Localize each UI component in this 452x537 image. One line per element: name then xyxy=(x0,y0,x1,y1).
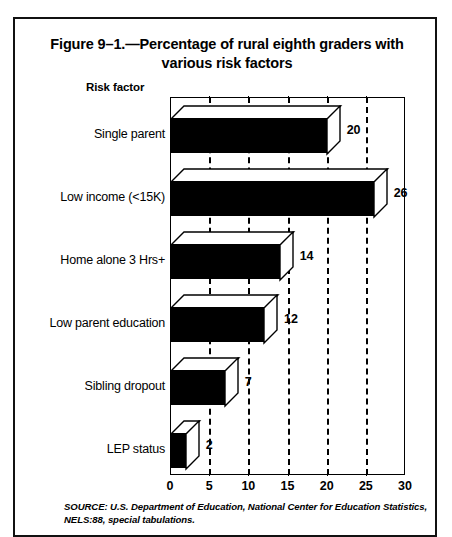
figure-title: Figure 9–1.—Percentage of rural eighth g… xyxy=(41,35,413,73)
bar-side-face xyxy=(279,231,295,282)
bar-front-face xyxy=(170,307,264,342)
x-tick-20 xyxy=(327,470,328,476)
gridline-5 xyxy=(209,97,211,475)
x-tick-top-10 xyxy=(248,96,249,102)
x-tick-label-0: 0 xyxy=(167,479,174,493)
x-tick-top-25 xyxy=(366,96,367,102)
x-tick-label-10: 10 xyxy=(241,479,255,493)
bar-side-face xyxy=(373,168,389,219)
bar-front-face xyxy=(170,370,225,405)
bar-value-label: 26 xyxy=(394,186,408,200)
source-note-line-2: NELS:88, special tabulations. xyxy=(64,514,438,527)
bar-side-face xyxy=(263,294,279,345)
x-tick-label-15: 15 xyxy=(281,479,295,493)
x-tick-top-20 xyxy=(327,96,328,102)
x-tick-10 xyxy=(248,470,249,476)
bar-front-face xyxy=(170,433,186,468)
figure-title-line-1: Figure 9–1.—Percentage of rural eighth g… xyxy=(50,36,403,52)
category-label-sibling-dropout: Sibling dropout xyxy=(5,379,165,393)
bar-front-face xyxy=(170,244,280,279)
bar-value-label: 12 xyxy=(284,312,298,326)
x-tick-top-15 xyxy=(288,96,289,102)
gridline-25 xyxy=(366,97,368,475)
gridline-10 xyxy=(248,97,250,475)
x-tick-top-5 xyxy=(209,96,210,102)
x-tick-label-30: 30 xyxy=(398,479,412,493)
category-label-low-parent-education: Low parent education xyxy=(5,316,165,330)
category-label-lep-status: LEP status xyxy=(5,442,165,456)
plot-area: 051015202530 2026141272 xyxy=(170,97,405,475)
source-note-line-1: SOURCE: U.S. Department of Education, Na… xyxy=(64,501,427,512)
bar-front-face xyxy=(170,118,327,153)
category-label-low-income-15k: Low income (<15K) xyxy=(5,190,165,204)
x-tick-25 xyxy=(366,470,367,476)
axis-caption-risk-factor: Risk factor xyxy=(86,81,144,93)
bar-side-face xyxy=(326,105,342,156)
figure-frame: Figure 9–1.—Percentage of rural eighth g… xyxy=(13,17,437,537)
gridline-15 xyxy=(288,97,290,475)
x-tick-label-25: 25 xyxy=(359,479,373,493)
x-tick-15 xyxy=(288,470,289,476)
x-tick-label-20: 20 xyxy=(320,479,334,493)
bar-side-face xyxy=(224,357,240,408)
bar-value-label: 7 xyxy=(245,375,252,389)
bar-front-face xyxy=(170,181,374,216)
figure-title-line-2: various risk factors xyxy=(41,54,413,73)
x-tick-5 xyxy=(209,470,210,476)
x-tick-label-5: 5 xyxy=(206,479,213,493)
category-label-group: Single parentLow income (<15K)Home alone… xyxy=(5,97,165,475)
bar-value-label: 14 xyxy=(300,249,314,263)
category-label-home-alone-3-hrs: Home alone 3 Hrs+ xyxy=(5,253,165,267)
bar-value-label: 20 xyxy=(347,123,361,137)
bar-value-label: 2 xyxy=(206,438,213,452)
category-label-single-parent: Single parent xyxy=(5,127,165,141)
bar-side-face xyxy=(185,420,201,471)
source-note: SOURCE: U.S. Department of Education, Na… xyxy=(64,501,438,526)
